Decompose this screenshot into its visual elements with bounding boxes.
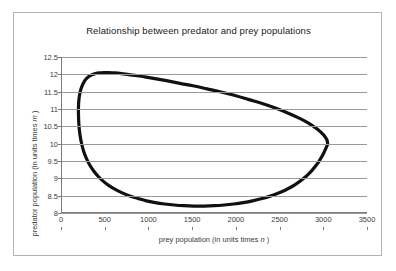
gridline [61,161,367,162]
x-axis-tick-label: 0 [59,215,63,224]
y-axis-title-wrapper: predator population (in units times m ) [14,57,28,213]
gridline [61,213,367,214]
x-axis-tick-mark [367,227,368,230]
x-axis-tick-mark [280,227,281,230]
gridline [61,74,367,75]
x-axis-tick-mark [236,227,237,230]
page-title: Relationship between predator and prey p… [14,25,383,36]
x-axis-tick-mark [61,227,62,230]
x-axis-tick-mark [148,227,149,230]
y-axis-tick-label: 8.5 [48,191,58,200]
y-axis-tick-label: 10.5 [43,122,58,131]
x-axis-tick-mark [323,227,324,230]
x-axis-tick-label: 3500 [359,215,376,224]
gridline [61,178,367,179]
y-axis-tick-label: 12 [50,70,58,79]
gridline [61,92,367,93]
gridline [61,126,367,127]
x-axis-title: prey population (in units times n ) [61,235,367,244]
y-axis-tick-label: 11 [50,105,58,114]
x-axis-title-suffix: ) [265,235,270,244]
y-axis-tick-labels: 12.51211.51110.5109.598.58 [32,57,58,213]
x-axis-tick-labels: 0500100015002000250030003500 [61,215,367,227]
x-axis-tick-mark [105,227,106,230]
x-axis-tick-label: 2500 [271,215,288,224]
gridline [61,196,367,197]
y-axis-tick-label: 11.5 [44,87,58,96]
y-axis-tick-label: 10 [50,139,58,148]
plot-area [61,57,367,213]
y-axis-line [61,57,62,213]
x-axis-tick-label: 1500 [184,215,201,224]
x-axis-tick-label: 500 [98,215,111,224]
y-axis-tick-label: 12.5 [43,53,58,62]
x-axis-tick-label: 1000 [140,215,157,224]
x-axis-line [61,212,367,213]
x-axis-tick-label: 3000 [315,215,332,224]
x-axis-title-prefix: prey population (in units times [159,235,261,244]
gridline [61,144,367,145]
x-axis-tick-mark [192,227,193,230]
predator-prey-orbit-curve [61,57,367,213]
x-axis-tick-label: 2000 [228,215,245,224]
gridline [61,57,367,58]
gridline [61,109,367,110]
y-axis-tick-label: 9.5 [48,157,58,166]
chart-figure: Relationship between predator and prey p… [13,12,382,256]
